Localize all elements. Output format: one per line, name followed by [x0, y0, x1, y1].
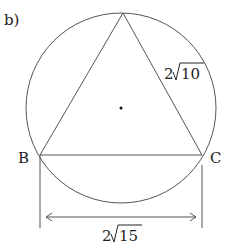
svg-text:10: 10	[181, 65, 200, 83]
dimension-arrow	[46, 213, 196, 221]
vertex-b-label: B	[18, 149, 29, 167]
svg-text:2: 2	[102, 227, 112, 245]
inscribed-triangle	[40, 13, 202, 155]
center-point	[120, 107, 123, 110]
part-label: b)	[4, 11, 19, 29]
geometry-figure: b) B C 2 10 2 15	[0, 0, 226, 245]
side-length-label: 2 10	[164, 63, 204, 83]
svg-text:15: 15	[119, 227, 138, 245]
base-length-label: 2 15	[102, 225, 142, 245]
vertex-c-label: C	[210, 149, 221, 167]
svg-text:2: 2	[164, 65, 174, 83]
